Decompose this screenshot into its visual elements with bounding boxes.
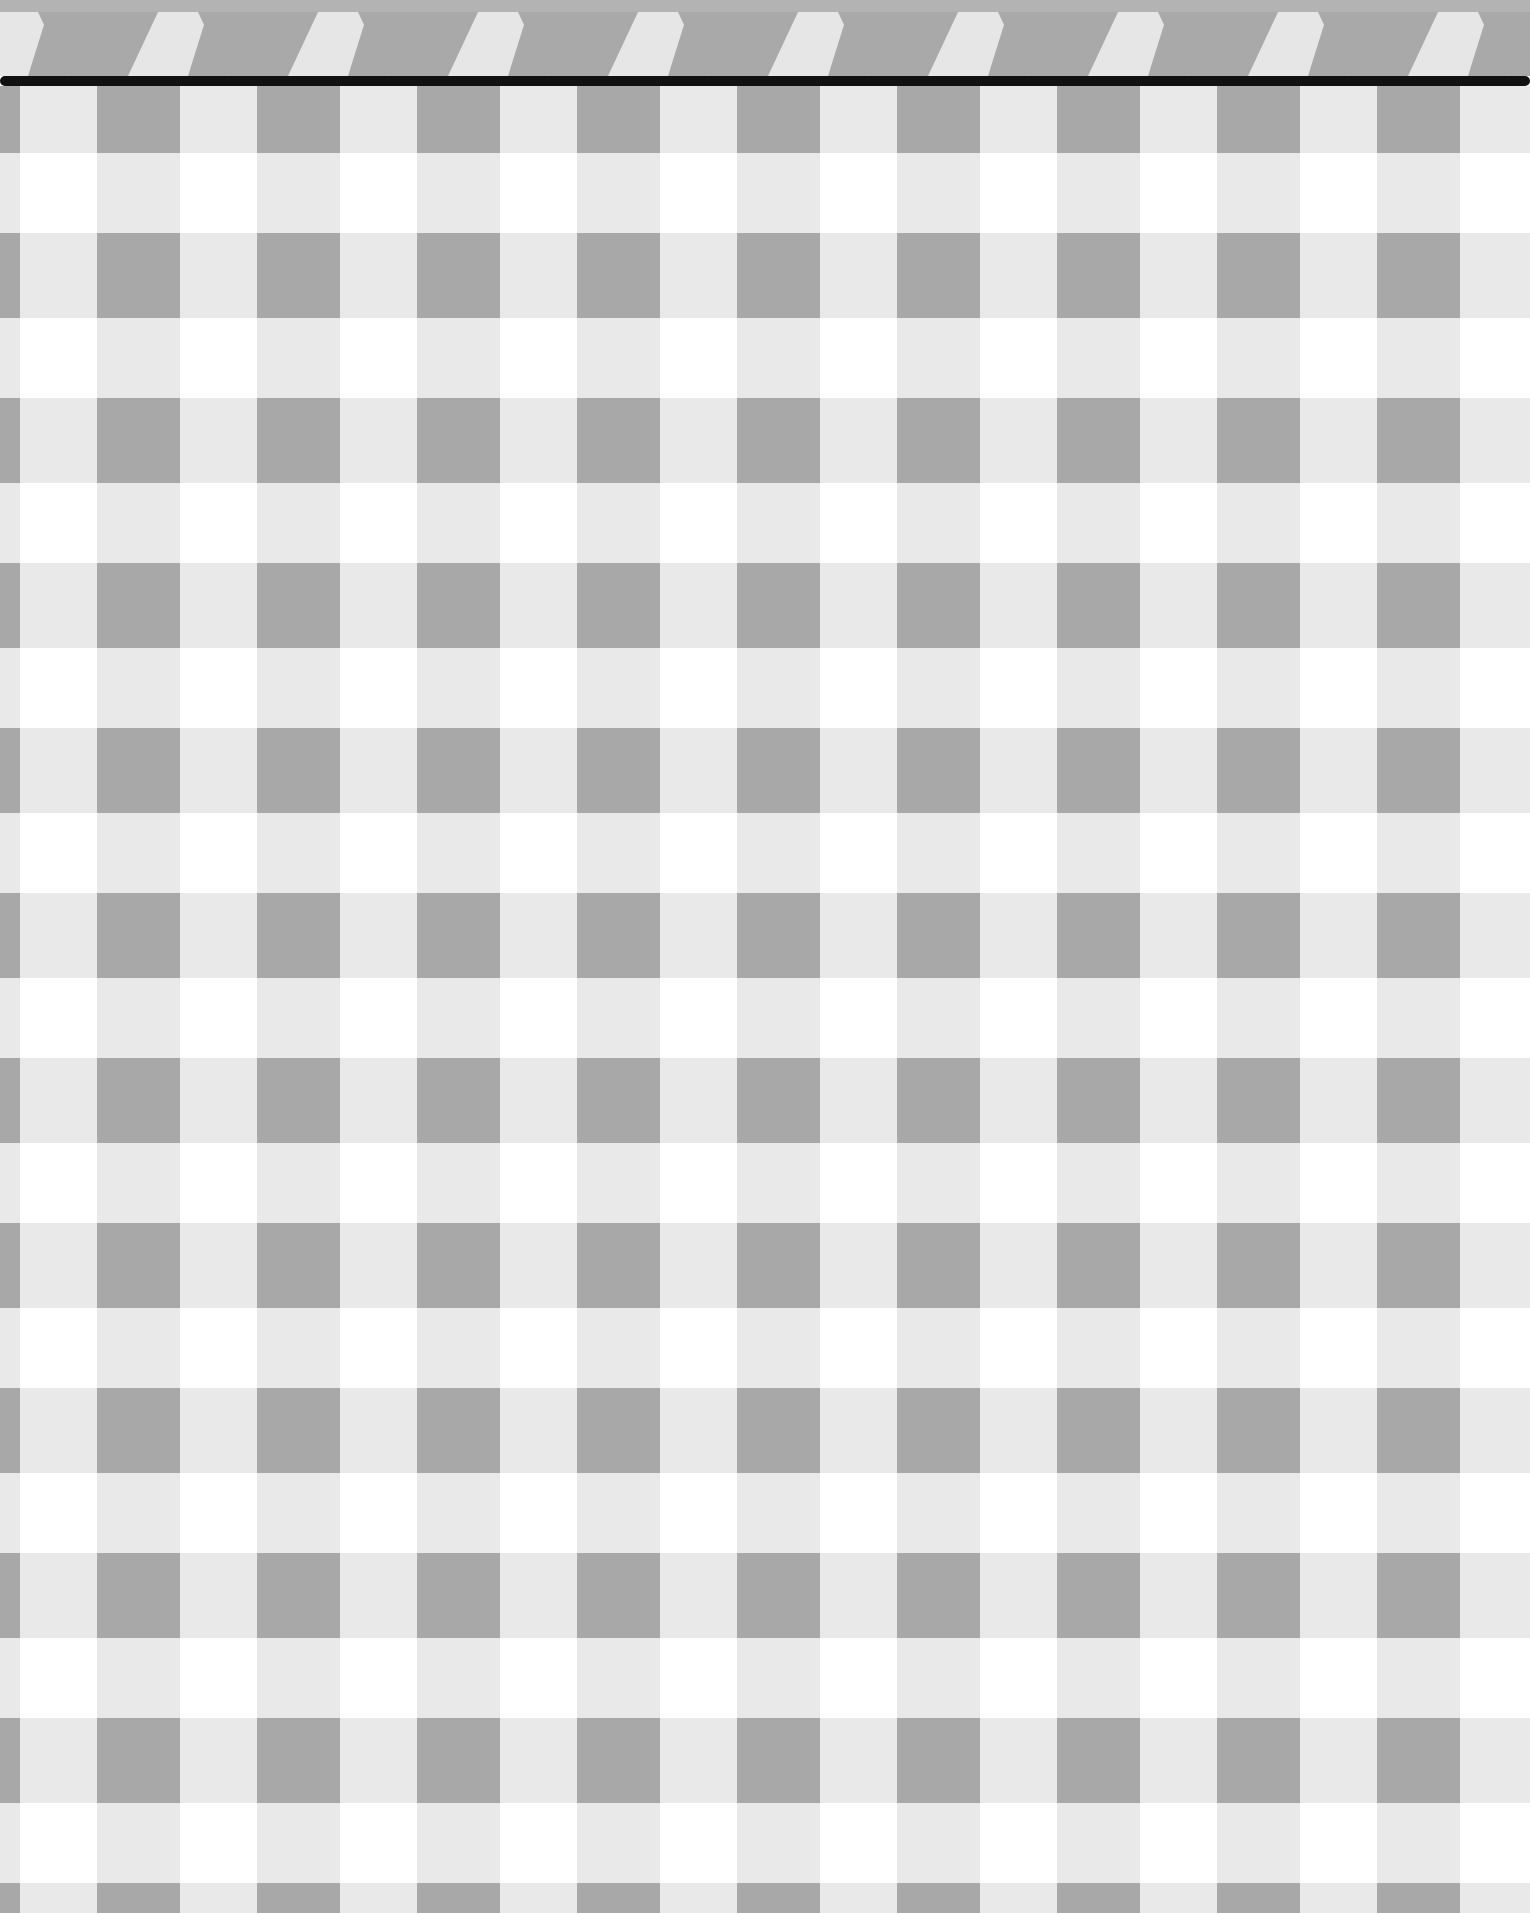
top-border-band <box>0 0 1530 76</box>
black-divider-line <box>0 76 1530 86</box>
gingham-check-pattern <box>0 86 1530 1913</box>
triangle-bunting-decoration <box>0 12 1530 76</box>
